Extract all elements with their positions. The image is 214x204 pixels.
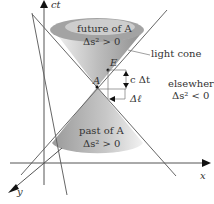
past-interval: Δs² > 0 <box>83 139 120 149</box>
c-delta-t-label: c Δt <box>130 75 150 85</box>
y-axis <box>12 148 62 190</box>
y-axis-label: y <box>17 187 23 197</box>
elsewhere-interval: Δs² < 0 <box>172 91 209 101</box>
delta-ell-label: Δℓ <box>130 94 141 104</box>
future-label: future of A <box>77 24 132 34</box>
past-label: past of A <box>79 126 124 136</box>
event-E-label: E <box>110 58 117 68</box>
ct-axis-label: ct <box>51 0 61 10</box>
event-A-label: A <box>93 76 100 86</box>
elsewhere-label: elsewhere <box>168 79 214 89</box>
light-cone-label: light cone <box>151 49 201 59</box>
ct-arrow <box>40 0 48 8</box>
x-arrow <box>202 159 211 167</box>
x-axis-label: x <box>200 171 206 181</box>
future-interval: Δs² > 0 <box>83 37 120 47</box>
